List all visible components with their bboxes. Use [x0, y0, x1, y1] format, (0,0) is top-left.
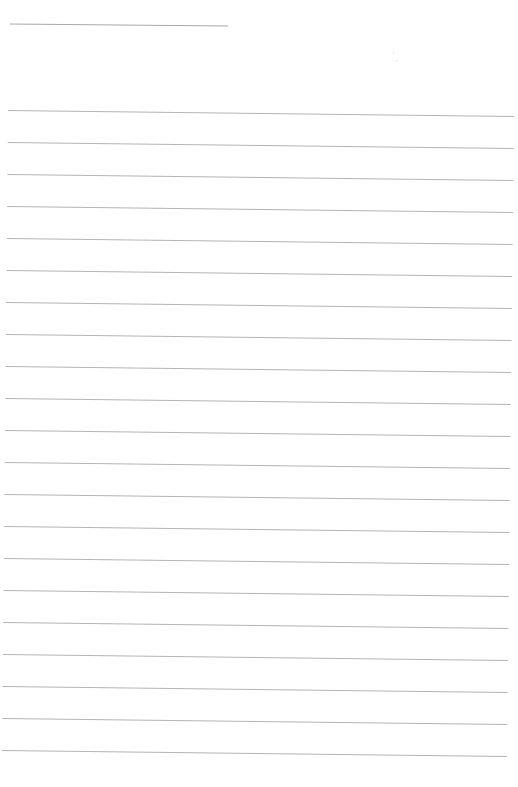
lined-paper-sheet — [0, 0, 518, 787]
paper-speck — [393, 52, 394, 54]
ruled-line — [6, 335, 512, 341]
ruled-line — [8, 111, 514, 117]
ruled-line — [3, 623, 508, 629]
ruled-line — [5, 399, 511, 405]
paper-speck — [396, 60, 397, 62]
ruled-lines — [0, 0, 518, 787]
ruled-line — [4, 495, 509, 501]
ruled-line — [4, 559, 509, 565]
ruled-line — [8, 143, 514, 149]
ruled-line — [7, 239, 513, 245]
ruled-line — [4, 591, 509, 597]
ruled-line — [3, 655, 508, 661]
ruled-line — [6, 367, 512, 373]
ruled-line — [2, 719, 507, 725]
ruled-line — [4, 527, 509, 533]
rule-lines-group — [2, 111, 514, 757]
ruled-line — [7, 207, 513, 213]
ruled-line — [5, 463, 510, 469]
ruled-line — [3, 687, 508, 693]
title-line — [10, 24, 228, 26]
ruled-line — [5, 431, 511, 437]
ruled-line — [7, 271, 513, 277]
ruled-line — [6, 303, 512, 309]
ruled-line — [7, 175, 513, 181]
ruled-line — [2, 751, 507, 757]
